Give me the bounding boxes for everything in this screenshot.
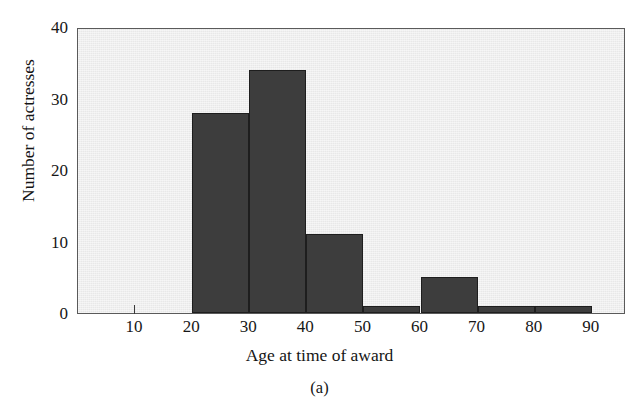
x-tick-mark <box>134 305 135 314</box>
histogram-figure: Number of actresses 010203040 1020304050… <box>0 0 639 416</box>
x-tick-label: 10 <box>114 318 154 336</box>
x-tick-label: 80 <box>514 318 554 336</box>
x-tick-label: 60 <box>400 318 440 336</box>
x-tick-label: 70 <box>457 318 497 336</box>
y-tick-label: 20 <box>34 162 68 179</box>
histogram-bar <box>192 113 249 313</box>
y-axis-label: Number of actresses <box>18 16 39 246</box>
x-tick-label: 50 <box>342 318 382 336</box>
y-tick-label: 30 <box>34 91 68 108</box>
x-axis-label: Age at time of award <box>0 345 639 366</box>
figure-caption: (a) <box>0 378 639 398</box>
x-tick-label: 90 <box>571 318 611 336</box>
histogram-bar <box>421 277 478 313</box>
x-tick-label: 40 <box>285 318 325 336</box>
y-tick-label: 40 <box>34 19 68 36</box>
y-tick-label: 10 <box>34 234 68 251</box>
histogram-bar <box>363 306 420 313</box>
histogram-bar <box>306 234 363 313</box>
x-tick-label: 20 <box>171 318 211 336</box>
histogram-bar <box>249 70 306 313</box>
figure-title <box>0 0 639 6</box>
histogram-bar <box>478 306 535 313</box>
x-tick-label: 30 <box>228 318 268 336</box>
histogram-bar <box>535 306 592 313</box>
plot-area <box>77 28 625 314</box>
y-tick-label: 0 <box>34 305 68 322</box>
